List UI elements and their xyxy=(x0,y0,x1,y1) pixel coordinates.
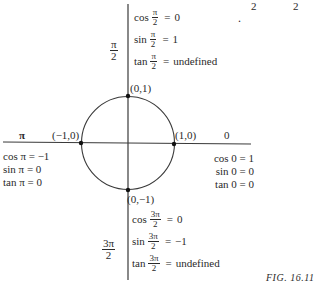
tan-pi-over-2: tan π2 = undefined xyxy=(134,50,217,72)
top-fragment-left: 2 xyxy=(251,0,257,12)
point-label-right: (1,0) xyxy=(175,129,196,141)
top-fragment-right: 2 xyxy=(293,0,299,12)
figure-caption: FIG. 16.11 xyxy=(266,272,314,283)
sin-zero: sin 0 = 0 xyxy=(205,165,254,178)
cos-zero: cos 0 = 1 xyxy=(205,152,254,165)
sin-3pi-over-2: sin 3π2 = −1 xyxy=(132,230,220,252)
point-top xyxy=(126,94,130,98)
horizontal-axis xyxy=(3,142,251,144)
point-label-bottom: (0,−1) xyxy=(127,193,154,205)
cos-pi-over-2: cos π2 = 0 xyxy=(134,6,217,28)
tan-pi: tan π = 0 xyxy=(3,176,49,189)
angle-3pi-over-2: 3π2 xyxy=(102,233,115,261)
cos-3pi-over-2: cos 3π2 = 0 xyxy=(132,208,220,230)
top-fragment-dot: . xyxy=(238,12,241,24)
angle-pi-over-2: π2 xyxy=(110,34,118,62)
point-right xyxy=(172,142,176,146)
point-left xyxy=(79,141,83,145)
axis-label-pi: π xyxy=(19,129,25,141)
bottom-quadrant-values: cos 3π2 = 0 sin 3π2 = −1 tan 3π2 = undef… xyxy=(132,208,220,274)
sin-pi-over-2: sin π2 = 1 xyxy=(134,28,217,50)
axis-label-zero: 0 xyxy=(224,129,230,141)
point-label-top: (0,1) xyxy=(130,82,151,94)
tan-zero: tan 0 = 0 xyxy=(205,178,254,191)
top-quadrant-values: cos π2 = 0 sin π2 = 1 tan π2 = undefined xyxy=(134,6,217,72)
sin-pi: sin π = 0 xyxy=(3,163,49,176)
point-label-left: (−1,0) xyxy=(52,129,79,141)
left-quadrant-values: cos π = −1 sin π = 0 tan π = 0 xyxy=(3,150,49,189)
tan-3pi-over-2: tan 3π2 = undefined xyxy=(132,252,220,274)
point-bottom xyxy=(126,188,130,192)
right-quadrant-values: cos 0 = 1 sin 0 = 0 tan 0 = 0 xyxy=(205,152,254,191)
cos-pi: cos π = −1 xyxy=(3,150,49,163)
